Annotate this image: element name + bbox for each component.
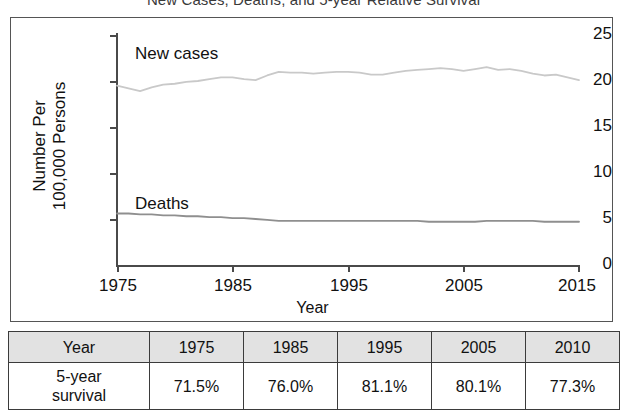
table-header-cell-1975: 1975 xyxy=(150,332,244,363)
x-axis-label: Year xyxy=(11,299,614,317)
table-header-cell-year: Year xyxy=(9,332,150,363)
chart-panel: Number Per 100,000 Persons 25 20 15 10 5… xyxy=(10,17,613,322)
line-new-cases xyxy=(117,67,579,91)
table-cell-survival-1985: 76.0% xyxy=(244,363,338,410)
survival-table: Year 1975 1985 1995 2005 2010 5-year sur… xyxy=(8,331,620,410)
table-header-cell-1995: 1995 xyxy=(338,332,432,363)
table-row: 5-year survival 71.5% 76.0% 81.1% 80.1% … xyxy=(9,363,620,410)
line-deaths xyxy=(117,213,579,221)
table-header-row: Year 1975 1985 1995 2005 2010 xyxy=(9,332,620,363)
table-header-cell-2010: 2010 xyxy=(526,332,620,363)
table-cell-survival-2005: 80.1% xyxy=(432,363,526,410)
series-label-new-cases: New cases xyxy=(135,44,218,64)
table-cell-survival-1995: 81.1% xyxy=(338,363,432,410)
table-header-cell-2005: 2005 xyxy=(432,332,526,363)
table-cell-survival-2010: 77.3% xyxy=(526,363,620,410)
page-title: New Cases, Deaths, and 5-year Relative S… xyxy=(0,0,627,8)
table-row-label-line-1: 5-year xyxy=(9,367,149,386)
series-label-deaths: Deaths xyxy=(135,194,189,214)
table-row-label-line-2: survival xyxy=(9,386,149,405)
series-plot xyxy=(11,18,614,323)
table-header-cell-1985: 1985 xyxy=(244,332,338,363)
table-cell-survival-1975: 71.5% xyxy=(150,363,244,410)
table-row-label-5-year-survival: 5-year survival xyxy=(9,363,150,410)
